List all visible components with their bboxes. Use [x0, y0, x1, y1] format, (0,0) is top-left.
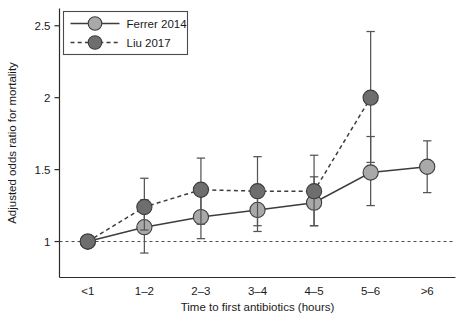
x-tick-label: 4–5: [304, 285, 323, 297]
legend-label-1: Ferrer 2014: [127, 18, 188, 30]
data-point-marker: [306, 184, 321, 199]
series-2-liu-2017: [80, 32, 378, 250]
y-axis-title: Adjusted odds ratio for mortality: [6, 62, 18, 224]
data-point-marker: [250, 184, 265, 199]
x-tick-label: 3–4: [248, 285, 268, 297]
data-point-marker: [363, 165, 378, 180]
y-tick-label: 1: [44, 236, 50, 248]
y-tick-label: 2.5: [35, 20, 51, 32]
chart-canvas: 11.522.5<11–22–33–44–55–6>6Time to first…: [0, 0, 466, 331]
data-point-marker: [193, 182, 208, 197]
legend-label-2: Liu 2017: [127, 37, 171, 49]
x-tick-label: 2–3: [191, 285, 210, 297]
data-point-marker: [420, 159, 435, 174]
data-point-marker: [137, 199, 152, 214]
y-tick-label: 2: [44, 92, 50, 104]
legend-marker-2: [88, 36, 102, 50]
x-axis-title: Time to first antibiotics (hours): [181, 301, 335, 313]
series-line: [88, 98, 371, 242]
legend-marker-1: [88, 17, 102, 31]
legend: Ferrer 2014Liu 2017: [64, 12, 188, 55]
x-tick-label: 1–2: [135, 285, 154, 297]
y-tick-label: 1.5: [35, 164, 51, 176]
data-point-marker: [80, 234, 95, 249]
x-tick-label: 5–6: [361, 285, 380, 297]
x-tick-label: <1: [81, 285, 94, 297]
x-tick-label: >6: [421, 285, 434, 297]
odds-ratio-chart: 11.522.5<11–22–33–44–55–6>6Time to first…: [0, 0, 466, 331]
data-point-marker: [363, 90, 378, 105]
